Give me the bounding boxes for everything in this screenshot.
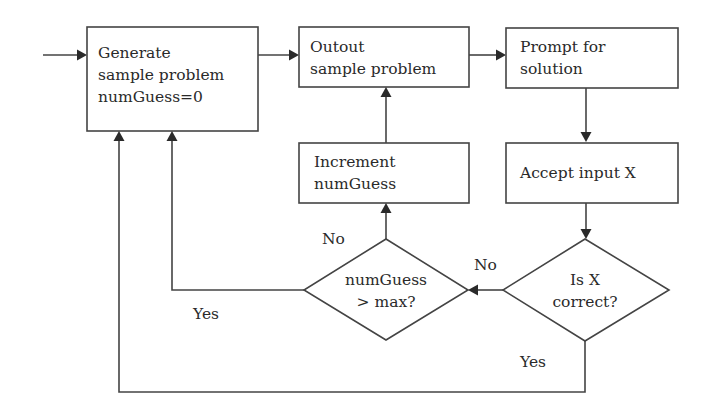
node-increment-line-2: numGuess <box>314 175 396 193</box>
node-increment: Increment numGuess <box>299 143 469 203</box>
edge-correct-no-max <box>468 285 503 296</box>
edge-max-yes-generate <box>167 131 305 290</box>
node-check-correct-line-1: Is X <box>570 271 600 289</box>
node-check-max-line-2: > max? <box>357 293 416 311</box>
entry-arrow <box>43 50 87 61</box>
label-correct-yes: Yes <box>519 353 546 371</box>
node-output-line-2: sample problem <box>310 60 437 78</box>
node-accept-line-1: Accept input X <box>519 164 636 182</box>
node-accept: Accept input X <box>506 143 678 203</box>
label-correct-no: No <box>474 256 497 274</box>
edge-output-prompt <box>469 50 506 61</box>
label-max-no: No <box>322 230 345 248</box>
node-generate: Generate sample problem numGuess=0 <box>87 27 258 131</box>
node-increment-line-1: Increment <box>314 153 396 171</box>
node-generate-line-2: sample problem <box>98 66 225 84</box>
edge-accept-correct <box>581 203 592 239</box>
edge-max-no-increment <box>381 203 392 239</box>
node-prompt: Prompt for solution <box>506 28 678 88</box>
edge-prompt-accept <box>581 88 592 142</box>
node-prompt-line-1: Prompt for <box>520 38 606 56</box>
node-generate-line-1: Generate <box>98 44 171 62</box>
node-check-correct-line-2: correct? <box>552 293 617 311</box>
node-generate-line-3: numGuess=0 <box>98 88 203 106</box>
node-prompt-line-2: solution <box>520 60 583 78</box>
node-output-line-1: Outout <box>310 38 365 56</box>
node-check-max: numGuess > max? <box>304 239 468 340</box>
flowchart-svg: Generate sample problem numGuess=0 Outou… <box>0 0 715 413</box>
node-check-correct: Is X correct? <box>503 239 669 341</box>
edge-generate-output <box>258 50 299 61</box>
node-output: Outout sample problem <box>299 27 469 87</box>
node-check-max-line-1: numGuess <box>345 271 427 289</box>
flowchart-canvas: Generate sample problem numGuess=0 Outou… <box>0 0 715 413</box>
label-max-yes: Yes <box>192 305 219 323</box>
edge-increment-output <box>381 87 392 143</box>
